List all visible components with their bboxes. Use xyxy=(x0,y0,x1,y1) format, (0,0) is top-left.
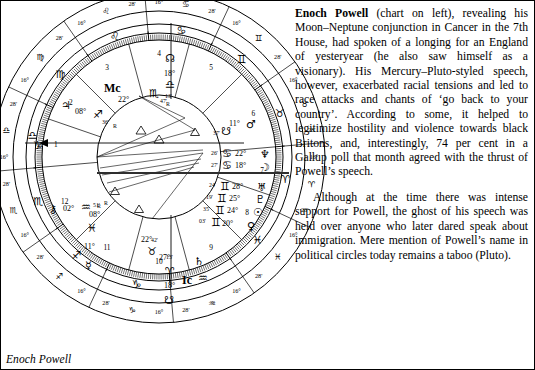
chart-caption: Enoch Powell xyxy=(6,353,71,365)
inner-sign-glyph-aries: ♈ xyxy=(281,173,291,186)
outer-sign-right-deg-gemini: 28' xyxy=(274,53,281,60)
planet-mars: 11° ♂ 37' ☋ xyxy=(213,118,256,138)
outer-sign-glyph-capricorn: ♑ xyxy=(128,305,136,315)
ring-inner-sign-band-outer xyxy=(26,24,292,290)
north-node-minute: 13' xyxy=(165,93,172,99)
house-number-labels: 123456789101112 xyxy=(54,49,264,266)
ic-degree: 22° xyxy=(141,235,152,244)
moon-glyph: ☽ xyxy=(260,161,270,174)
outer-sign-glyph-pisces: ♓ xyxy=(274,252,282,262)
inner-sign-glyph-capricorn: ♑ xyxy=(132,278,142,291)
outer-sign-right-deg-virgo: 28' xyxy=(56,34,63,41)
pluto-minute: 19' xyxy=(206,194,213,200)
outer-sign-left-deg-aquarius: 16° xyxy=(232,287,241,294)
outer-sign-left-deg-capricorn: 16° xyxy=(155,308,164,315)
planet-neptune: 26' ♋ 22° ♆ xyxy=(211,147,270,161)
inner-sign-glyph-virgo: ♍ xyxy=(56,68,66,81)
ascendant-descendant-axis xyxy=(25,139,289,173)
south-node-minute: 13' xyxy=(166,254,173,260)
outer-sign-glyph-gemini: ♊ xyxy=(255,33,263,43)
north-node-glyph: ☊ xyxy=(165,52,175,65)
inner-sign-glyph-pisces: ♓ xyxy=(252,234,262,247)
mars-minute: 37' xyxy=(213,130,220,136)
chiron-degree: 02° xyxy=(63,204,74,213)
outer-sign-glyph-leo: ♌ xyxy=(102,6,110,16)
mars-glyph: ♂ xyxy=(246,118,256,131)
north-node-retro: R xyxy=(166,101,170,107)
outer-sign-right-deg-cancer: 28' xyxy=(208,7,215,14)
inner-ring-sign-glyphs: ♎♍♌♋♊♉♈♓♒♑♐♏ xyxy=(28,24,291,290)
outer-sign-glyph-libra: ♎ xyxy=(3,125,11,135)
house-number-3: 3 xyxy=(105,63,109,72)
jupiter-degree: 08° xyxy=(75,107,86,116)
outer-sign-right-deg-capricorn: 28' xyxy=(102,299,109,306)
venus-minute: 03' xyxy=(199,218,206,224)
inner-sign-glyph-scorpio: ♏ xyxy=(33,195,43,208)
venus-degree: 20° xyxy=(222,219,233,228)
planet-north-node: ☊ 18° ♎ 13' R xyxy=(164,52,175,107)
south-node-glyph: ☋ xyxy=(164,294,174,307)
chiron-sign: ♒ xyxy=(81,201,91,214)
outer-sign-left-deg-cancer: 16° xyxy=(155,0,164,5)
mercury-node-degree: 11° xyxy=(84,242,95,251)
outer-sign-right-deg-scorpio: 28' xyxy=(3,180,10,187)
page-root: ♎16°28'♍16°28'♌16°28'♋16°28'♊16°28'♉16°2… xyxy=(0,0,535,370)
article-paragraph-2: Although at the time there was intense s… xyxy=(295,191,528,263)
mc-label: Mc xyxy=(104,81,121,95)
moon-minute: 27' xyxy=(211,162,218,168)
outer-sign-glyph-virgo: ♍ xyxy=(36,52,44,62)
saturn-glyph: ♄ xyxy=(194,255,204,268)
house-number-8: 8 xyxy=(245,208,249,217)
pluto-glyph: ♇ xyxy=(255,193,265,206)
jupiter-glyph: ♃ xyxy=(61,99,71,112)
uranus-degree: 28° xyxy=(232,182,243,191)
outer-sign-right-deg-leo: 28' xyxy=(128,0,135,7)
outer-sign-glyph-aquarius: ♒ xyxy=(208,298,216,308)
moon-degree: 18° xyxy=(235,161,246,170)
ic-label: Ic xyxy=(182,273,193,287)
house-number-4: 4 xyxy=(157,49,161,58)
inner-sign-glyph-aquarius: ♒ xyxy=(198,272,208,285)
jupiter-minute: 36' xyxy=(102,119,109,125)
ascendant-marker: ♑ xyxy=(33,139,43,152)
inner-sign-glyph-taurus: ♉ xyxy=(275,107,285,120)
inner-sign-glyph-sagittarius: ♐ xyxy=(71,249,81,262)
outer-sign-left-deg-scorpio: 16° xyxy=(20,231,29,238)
moon-sign: ♋ xyxy=(222,159,232,172)
aspect-lines xyxy=(97,96,203,219)
planet-venus: 03' ♊ 20° ♀ xyxy=(199,216,255,233)
venus-glyph: ♀ xyxy=(247,220,255,233)
outer-sign-right-deg-libra: 28' xyxy=(10,100,17,107)
outer-ring-sign-labels: ♎16°28'♍16°28'♌16°28'♋16°28'♊16°28'♉16°2… xyxy=(0,0,319,315)
ascendant-sign-glyph: ♑ xyxy=(33,139,43,152)
article-subject-name: Enoch Powell xyxy=(295,7,368,20)
outer-sign-right-deg-sagittarius: 28' xyxy=(37,253,44,260)
chiron-minute: 51' xyxy=(93,202,100,208)
article-text-column: Enoch Powell (chart on left), revealing … xyxy=(295,7,528,274)
saturn-sign: ♉ xyxy=(147,245,157,258)
jupiter-retro: R xyxy=(113,123,117,129)
venus-sign: ♊ xyxy=(211,216,221,229)
mercury-sign: ♓ xyxy=(87,222,97,235)
house-number-5: 5 xyxy=(209,63,213,72)
neptune-glyph: ♆ xyxy=(260,148,270,161)
outer-sign-left-deg-sagittarius: 16° xyxy=(77,287,86,294)
outer-sign-left-deg-virgo: 16° xyxy=(20,76,29,83)
outer-sign-left-deg-gemini: 16° xyxy=(232,19,241,26)
ring-inner-hub xyxy=(97,95,221,219)
article-paragraph-1-body: (chart on left), revealing his Moon–Nept… xyxy=(295,7,528,178)
mars-sign: ☋ xyxy=(221,125,231,138)
uranus-minute: 24' xyxy=(209,182,216,188)
inner-sign-glyph-leo: ♌ xyxy=(110,30,120,43)
south-node-sign: ♈ xyxy=(165,265,175,278)
outer-sign-glyph-cancer: ♋ xyxy=(182,0,190,9)
sun-minute: 35' xyxy=(203,206,210,212)
article-paragraph-1: Enoch Powell (chart on left), revealing … xyxy=(295,7,528,180)
mc-degree: 22° xyxy=(118,95,129,104)
angle-mc: Mc 22° ♏ 47' xyxy=(104,81,167,104)
chiron-retro: R xyxy=(104,200,108,206)
mercury-glyph: ☿ xyxy=(85,259,92,272)
house-number-9: 9 xyxy=(209,243,213,252)
outer-sign-right-deg-pisces: 28' xyxy=(255,272,262,279)
inner-sign-glyph-gemini: ♊ xyxy=(237,53,247,66)
